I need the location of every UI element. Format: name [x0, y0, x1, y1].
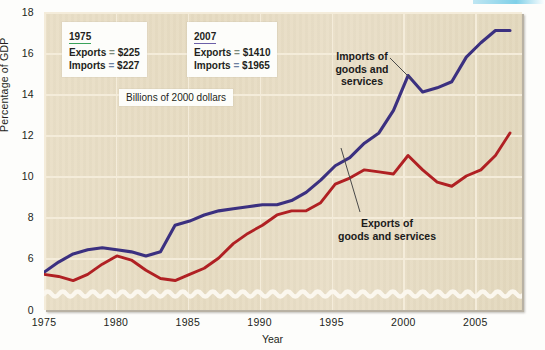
imports-series-label-line2: goods and: [302, 63, 422, 76]
x-tick-1995: 1995: [302, 316, 362, 328]
imports-series-label-line3: services: [302, 75, 422, 88]
x-tick-1980: 1980: [86, 316, 146, 328]
callout-1975-exports-label: Exports: [69, 47, 106, 58]
x-axis-label: Year: [0, 333, 545, 345]
y-tick-8: 8: [0, 211, 34, 223]
callout-1975-imports-label: Imports: [69, 60, 106, 71]
x-tick-1985: 1985: [158, 316, 218, 328]
exports-series-label-line2: goods and services: [312, 230, 462, 243]
callout-1975-imports-eq: =: [108, 60, 114, 71]
callout-2007-imports-value: $1965: [242, 60, 270, 71]
x-tick-2005: 2005: [445, 316, 505, 328]
x-tick-1990: 1990: [230, 316, 290, 328]
chart-page: 1975 Exports = $225 Imports = $227 2007 …: [0, 0, 545, 350]
exports-series-label: Exports of goods and services: [312, 217, 462, 242]
year-1975-callout: 1975 Exports = $225 Imports = $227: [62, 22, 147, 77]
callout-2007-imports-row: Imports = $1965: [194, 59, 270, 72]
plot-area: 1975 Exports = $225 Imports = $227 2007 …: [44, 12, 522, 310]
year-2007-callout: 2007 Exports = $1410 Imports = $1965: [187, 22, 277, 77]
scan-edge-artifact: [473, 0, 545, 4]
x-axis: 1975 1980 1985 1990 1995 2000 2005: [0, 316, 545, 332]
callout-2007-imports-label: Imports: [194, 60, 231, 71]
y-tick-0: 0: [0, 304, 34, 316]
callout-1975-exports-row: Exports = $225: [69, 46, 140, 59]
callout-1975-imports-row: Imports = $227: [69, 59, 140, 72]
exports-series-label-line1: Exports of: [312, 217, 462, 230]
imports-series-label: Imports of goods and services: [302, 50, 422, 88]
y-tick-10: 10: [0, 170, 34, 182]
y-tick-18: 18: [0, 6, 34, 18]
callout-2007-exports-row: Exports = $1410: [194, 46, 270, 59]
callout-2007-exports-eq: =: [234, 47, 240, 58]
y-axis-label: Percentage of GDP: [0, 38, 10, 132]
callout-2007-exports-label: Exports: [194, 47, 231, 58]
callout-1975-heading: 1975: [69, 31, 91, 44]
imports-series-label-line1: Imports of: [302, 50, 422, 63]
x-tick-1975: 1975: [14, 316, 74, 328]
callout-2007-exports-value: $1410: [243, 47, 271, 58]
callout-2007-imports-eq: =: [233, 60, 239, 71]
callout-2007-heading: 2007: [194, 31, 216, 44]
x-tick-2000: 2000: [373, 316, 433, 328]
units-note: Billions of 2000 dollars: [119, 89, 233, 106]
exports-leader-line: [341, 148, 360, 212]
callout-1975-exports-value: $225: [118, 47, 140, 58]
callout-1975-imports-value: $227: [117, 60, 139, 71]
y-tick-6: 6: [0, 252, 34, 264]
callout-1975-exports-eq: =: [109, 47, 115, 58]
